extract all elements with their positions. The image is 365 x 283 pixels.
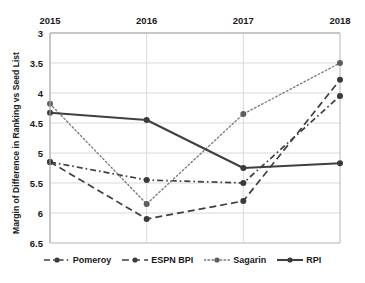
legend-item-sagarin[interactable]: Sagarin bbox=[204, 255, 266, 265]
legend-item-rpi[interactable]: RPI bbox=[277, 255, 321, 265]
dotted-marker-icon bbox=[204, 255, 230, 265]
data-point-sagarin-2018 bbox=[337, 60, 343, 66]
solid-marker-icon bbox=[277, 255, 303, 265]
data-point-pomeroy-2016 bbox=[144, 177, 150, 183]
legend-item-pomeroy[interactable]: Pomeroy bbox=[44, 255, 112, 265]
data-point-espn-bpi-2016 bbox=[144, 216, 150, 222]
chart-legend: PomeroyESPN BPISagarinRPI bbox=[0, 250, 365, 270]
data-point-rpi-2017 bbox=[240, 165, 246, 171]
data-point-espn-bpi-2018 bbox=[337, 77, 343, 83]
data-point-pomeroy-2018 bbox=[337, 93, 343, 99]
legend-label: Sagarin bbox=[233, 256, 266, 265]
data-point-sagarin-2017 bbox=[240, 111, 246, 117]
series-line-espn-bpi bbox=[50, 80, 340, 219]
legend-label: Pomeroy bbox=[73, 256, 112, 265]
legend-marker bbox=[215, 257, 220, 262]
data-point-espn-bpi-2017 bbox=[240, 198, 246, 204]
data-point-pomeroy-2017 bbox=[240, 180, 246, 186]
chart-container: Margin of Difference in Ranking vs Seed … bbox=[0, 0, 365, 283]
dash-dot-marker-icon bbox=[44, 255, 70, 265]
data-point-rpi-2016 bbox=[144, 117, 150, 123]
data-point-sagarin-2016 bbox=[144, 201, 150, 207]
series-line-pomeroy bbox=[50, 96, 340, 183]
legend-label: ESPN BPI bbox=[151, 256, 193, 265]
data-point-rpi-2018 bbox=[337, 160, 343, 166]
dashed-marker-icon bbox=[122, 255, 148, 265]
legend-item-espn-bpi[interactable]: ESPN BPI bbox=[122, 255, 193, 265]
plot-area bbox=[0, 0, 365, 283]
legend-marker bbox=[133, 257, 138, 262]
legend-marker bbox=[288, 257, 293, 262]
legend-label: RPI bbox=[306, 256, 321, 265]
legend-marker bbox=[54, 257, 59, 262]
